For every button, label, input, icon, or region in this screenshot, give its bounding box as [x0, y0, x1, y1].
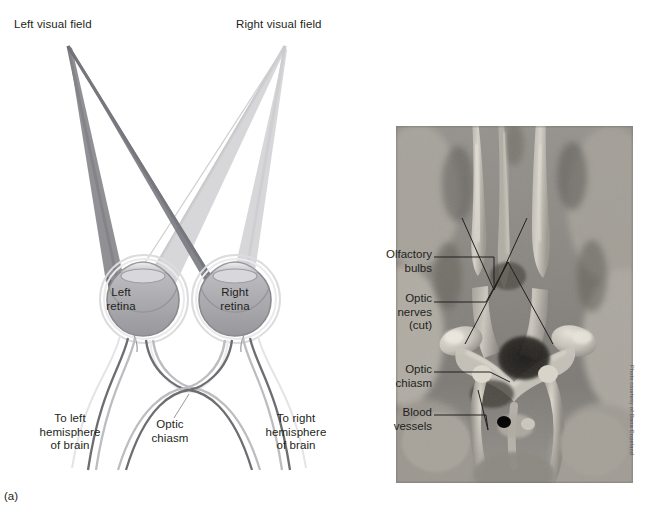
photo-label-blood-vessels: Blood vessels	[338, 406, 432, 433]
figure-visual-pathway: Left visual field Right visual field Lef…	[0, 0, 661, 513]
panel-a-tag: (a)	[4, 490, 18, 502]
right-eye-lens	[213, 269, 257, 283]
label-to-left-hemisphere: To left hemisphere of brain	[24, 412, 116, 453]
label-to-right-hemisphere: To right hemisphere of brain	[248, 412, 344, 453]
label-left-visual-field: Left visual field	[14, 18, 154, 32]
photo-credit: Photo courtesy of Dana Copeland	[629, 365, 635, 455]
photo-label-optic-nerves-cut: Optic nerves (cut)	[338, 292, 432, 333]
panel-a-diagram: Left visual field Right visual field Lef…	[0, 0, 390, 513]
photo-label-olfactory-bulbs: Olfactory bulbs	[338, 248, 432, 275]
label-right-visual-field: Right visual field	[236, 18, 386, 32]
photo-label-optic-chiasm: Optic chiasm	[338, 363, 432, 390]
panel-b-photograph: Olfactory bulbs Optic nerves (cut) Optic…	[390, 0, 661, 513]
label-optic-chiasm: Optic chiasm	[130, 418, 210, 445]
optic-chiasm-leader	[174, 394, 189, 418]
label-left-retina: Left retina	[92, 286, 150, 313]
left-eye-lens	[121, 269, 165, 283]
label-right-retina: Right retina	[204, 286, 266, 313]
